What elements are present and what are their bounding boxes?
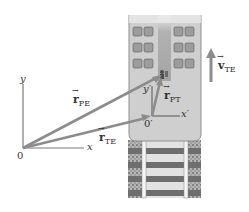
r-PE-symbol: r xyxy=(73,94,79,105)
diagram-graphics xyxy=(0,0,249,212)
y-axis-label: y xyxy=(20,74,26,84)
r-PE-subscript: PE xyxy=(79,99,90,108)
r-PT-symbol: r xyxy=(164,90,170,101)
relative-motion-diagram: y x 0 y′ x′ 0′ rPE rTE rPT vTE xyxy=(0,0,249,212)
r-TE-subscript: TE xyxy=(105,137,116,146)
v-TE-symbol: v xyxy=(218,60,224,71)
v-TE-label: vTE xyxy=(218,60,236,74)
r-TE-label: rTE xyxy=(99,132,116,146)
r-PE-label: rPE xyxy=(73,94,90,108)
x-prime-label: x′ xyxy=(181,109,189,119)
railroad-track xyxy=(128,140,201,198)
train-car xyxy=(129,15,201,141)
train-origin-label: 0′ xyxy=(144,119,153,129)
r-TE-symbol: r xyxy=(99,132,105,143)
origin-label: 0 xyxy=(17,151,23,161)
r-PT-subscript: PT xyxy=(170,95,181,104)
x-axis-label: x xyxy=(87,142,93,152)
r-PT-label: rPT xyxy=(164,90,181,104)
vector-v-TE xyxy=(206,48,216,82)
v-TE-subscript: TE xyxy=(224,65,235,74)
y-prime-label: y′ xyxy=(143,84,151,94)
